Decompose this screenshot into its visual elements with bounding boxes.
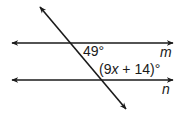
expr-part-2: + 14)° — [118, 61, 160, 77]
parallel-lines-diagram: 49° (9x + 14)° m n — [0, 0, 181, 119]
angle-label-49: 49° — [83, 43, 104, 59]
line-label-n: n — [162, 81, 170, 97]
angle-label-expression: (9x + 14)° — [99, 61, 160, 77]
line-label-m: m — [160, 44, 172, 60]
expr-part-1: (9 — [99, 61, 112, 77]
